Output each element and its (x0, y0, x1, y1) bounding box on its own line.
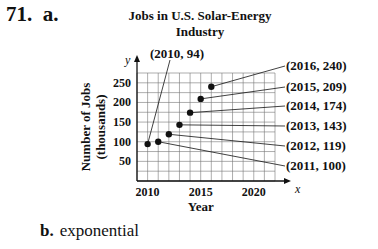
y-tick-label: 50 (119, 154, 131, 168)
leader-line (148, 60, 170, 144)
point-label: (2010, 94) (150, 46, 204, 61)
leader-line (158, 142, 285, 166)
y-axis-label-line2: (thousands) (93, 94, 108, 159)
y-tick-label: 150 (113, 115, 131, 129)
point-label: (2012, 119) (286, 138, 346, 153)
x-axis-label: Year (188, 199, 214, 214)
leader-line (169, 134, 285, 146)
data-point (166, 131, 172, 137)
part-b-answer: exponential (60, 221, 139, 240)
y-tick-label: 200 (113, 95, 131, 109)
y-axis-label-line1: Number of Jobs (78, 83, 93, 172)
leader-line (179, 125, 285, 126)
x-axis-letter: x (294, 182, 301, 196)
data-point (155, 139, 161, 145)
leader-line (211, 66, 285, 87)
data-point (176, 122, 182, 128)
point-label: (2015, 209) (286, 79, 347, 94)
x-tick-label: 2020 (242, 185, 266, 199)
data-point (144, 141, 150, 147)
part-b: b.exponential (40, 221, 139, 241)
scatter-chart: xy20102015202050100150200250YearNumber o… (0, 0, 378, 249)
point-label: (2014, 174) (286, 98, 347, 113)
leader-line (190, 106, 285, 113)
point-label: (2011, 100) (286, 158, 346, 173)
x-tick-label: 2015 (189, 185, 213, 199)
x-tick-label: 2010 (136, 185, 160, 199)
part-b-label: b. (40, 221, 54, 240)
point-label: (2013, 143) (286, 118, 347, 133)
y-axis-arrow-icon (134, 55, 140, 62)
data-point (197, 96, 203, 102)
data-point (187, 109, 193, 115)
y-tick-label: 100 (113, 135, 131, 149)
y-tick-label: 250 (113, 76, 131, 90)
point-label: (2016, 240) (286, 58, 347, 73)
x-axis-arrow-icon (284, 178, 291, 184)
y-axis-letter: y (124, 53, 131, 67)
data-point (208, 84, 214, 90)
